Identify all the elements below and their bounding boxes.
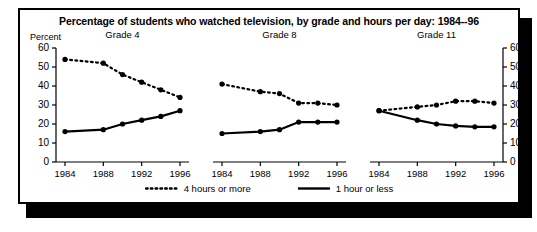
panel-title-grade-11: Grade 11: [417, 29, 456, 40]
figure-root: Percentage of students who watched telev…: [0, 0, 537, 232]
chart-legend: 4 hours or more 1 hour or less: [20, 183, 518, 194]
y-axis-tick-label-left: 40: [38, 80, 50, 91]
data-point: [315, 120, 320, 125]
legend-label-one-hour-or-less: 1 hour or less: [336, 183, 394, 194]
data-point: [62, 129, 67, 134]
data-point: [219, 82, 224, 87]
data-point: [434, 121, 439, 126]
legend-swatch-solid: [297, 184, 331, 193]
x-axis-tick-label: 1992: [445, 168, 466, 179]
x-axis-tick-label: 1996: [483, 168, 504, 179]
data-point: [219, 131, 224, 136]
data-point: [277, 127, 282, 132]
y-axis-tick-label-right: 50: [510, 61, 518, 72]
data-point: [101, 127, 106, 132]
y-axis-tick-label-left: 50: [38, 61, 50, 72]
data-point: [472, 124, 477, 129]
data-point: [415, 118, 420, 123]
y-axis-tick-label-right: 20: [510, 118, 518, 129]
x-axis-tick-label: 1988: [407, 168, 428, 179]
y-axis-tick-label-right: 0: [510, 156, 516, 167]
y-axis-tick-label-right: 10: [510, 137, 518, 148]
data-point: [177, 108, 182, 113]
data-point: [101, 61, 106, 66]
panel-title-grade-4: Grade 4: [105, 29, 139, 40]
x-axis-tick-label: 1984: [368, 168, 389, 179]
x-axis-tick-label: 1996: [326, 168, 347, 179]
chart-plot-area: 0102030405060010203040506019841988199219…: [20, 10, 518, 202]
data-point: [453, 123, 458, 128]
data-point: [334, 102, 339, 107]
data-point: [139, 80, 144, 85]
x-axis-tick-label: 1996: [169, 168, 190, 179]
data-point: [177, 95, 182, 100]
data-point: [158, 87, 163, 92]
y-axis-tick-label-left: 20: [38, 118, 50, 129]
y-axis-tick-label-right: 30: [510, 99, 518, 110]
y-axis-tick-label-left: 0: [43, 156, 49, 167]
data-point: [453, 99, 458, 104]
data-point: [296, 120, 301, 125]
data-point: [62, 57, 67, 62]
chart-frame: Percentage of students who watched telev…: [18, 8, 520, 204]
x-axis-tick-label: 1988: [93, 168, 114, 179]
data-point: [334, 120, 339, 125]
x-axis-tick-label: 1992: [288, 168, 309, 179]
series-line-4-hours-or-more: [65, 59, 180, 97]
x-axis-tick-label: 1984: [54, 168, 75, 179]
data-point: [415, 104, 420, 109]
legend-swatch-dotted: [145, 184, 179, 193]
data-point: [472, 99, 477, 104]
y-axis-tick-label-right: 60: [510, 42, 518, 53]
x-axis-tick-label: 1984: [211, 168, 232, 179]
data-point: [139, 118, 144, 123]
data-point: [315, 101, 320, 106]
data-point: [434, 102, 439, 107]
x-axis-tick-label: 1988: [250, 168, 271, 179]
data-point: [120, 121, 125, 126]
data-point: [491, 101, 496, 106]
y-axis-tick-label-left: 60: [38, 42, 50, 53]
data-point: [120, 72, 125, 77]
data-point: [376, 108, 381, 113]
data-point: [258, 129, 263, 134]
y-axis-tick-label-left: 30: [38, 99, 50, 110]
series-line-1-hour-or-less: [65, 111, 180, 132]
data-point: [296, 101, 301, 106]
y-axis-tick-label-left: 10: [38, 137, 50, 148]
data-point: [258, 89, 263, 94]
legend-item-four-hours-or-more: 4 hours or more: [145, 183, 251, 194]
data-point: [158, 114, 163, 119]
x-axis-tick-label: 1992: [131, 168, 152, 179]
data-point: [491, 124, 496, 129]
panel-title-grade-8: Grade 8: [262, 29, 296, 40]
data-point: [277, 91, 282, 96]
legend-label-four-hours-or-more: 4 hours or more: [184, 183, 251, 194]
legend-item-one-hour-or-less: 1 hour or less: [297, 183, 394, 194]
y-axis-tick-label-right: 40: [510, 80, 518, 91]
